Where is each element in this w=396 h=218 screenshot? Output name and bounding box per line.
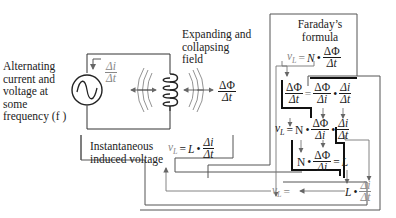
inductor-coil-icon (163, 74, 177, 111)
result-equation: L • ΔiΔt (345, 180, 371, 203)
current-rate-fraction: ΔiΔt (105, 61, 117, 84)
current-arrow (93, 59, 101, 69)
faraday-equation: vL = N • ΔΦΔt (287, 46, 341, 69)
source-label: Alternating current and voltage at some … (3, 60, 66, 123)
inductor-law-equation: vL = L • ΔiΔt (168, 137, 214, 160)
substituted-equation: vL = N • ΔΦΔi • ΔiΔt (275, 118, 349, 141)
inductance-equation: N • ΔΦΔi = L (297, 150, 348, 173)
result-vl: vL = (272, 184, 290, 199)
faraday-title: Faraday’s formula (290, 18, 350, 43)
chain-rule-equation: ΔΦΔt = ΔΦΔi • ΔiΔt (285, 82, 351, 105)
flux-rate-fraction: ΔΦΔt (218, 80, 236, 103)
instantaneous-label: Instantaneous induced voltage (90, 140, 163, 165)
ac-source-icon (72, 75, 102, 105)
field-label: Expanding and collapsing field (182, 28, 251, 66)
